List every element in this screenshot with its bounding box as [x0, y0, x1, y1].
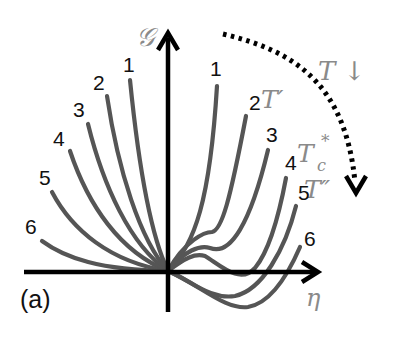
free-energy-diagram: 𝒢 η T ↓ T′ T c * T″ 1 2 3 4 5 6 1 2 3 4 …: [0, 0, 397, 341]
t-prime-label: T′: [261, 85, 284, 114]
right-label-5: 5: [298, 181, 310, 204]
svg-text:T: T: [297, 139, 316, 168]
left-curve-5: [52, 192, 168, 271]
left-curve-3: [88, 124, 168, 271]
t-c-star-label: T c *: [297, 131, 330, 175]
left-label-5: 5: [39, 166, 51, 189]
trend-label: T ↓: [318, 56, 365, 86]
axes: [24, 33, 318, 312]
x-axis-label: η: [306, 284, 321, 312]
right-curve-4: [168, 178, 286, 275]
right-label-1: 1: [210, 57, 222, 80]
svg-text:c: c: [317, 156, 326, 175]
left-label-1: 1: [123, 53, 135, 76]
left-label-4: 4: [53, 127, 65, 150]
svg-text:*: *: [321, 131, 330, 151]
left-curves: [42, 80, 168, 271]
right-label-6: 6: [304, 227, 316, 250]
dotted-arrowhead-icon: [346, 176, 366, 193]
left-label-2: 2: [93, 71, 105, 94]
right-label-3: 3: [266, 123, 278, 146]
panel-label: (a): [20, 285, 51, 313]
right-label-4: 4: [285, 151, 297, 174]
left-label-3: 3: [73, 98, 85, 121]
y-axis-label: 𝒢: [136, 22, 159, 52]
right-label-2: 2: [249, 91, 261, 114]
left-label-6: 6: [25, 215, 37, 238]
